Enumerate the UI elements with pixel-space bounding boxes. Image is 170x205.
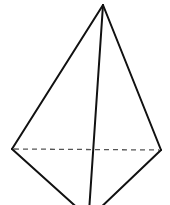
edge-apex-bottom xyxy=(89,5,103,205)
edge-right-bottom xyxy=(96,150,161,205)
edge-apex-left xyxy=(12,5,103,149)
edge-left-bottom xyxy=(12,149,82,205)
tetrahedron-figure xyxy=(0,0,170,205)
edge-apex-right xyxy=(103,5,161,150)
edge-left-right-hidden xyxy=(14,149,159,150)
diagram-canvas xyxy=(0,0,170,205)
